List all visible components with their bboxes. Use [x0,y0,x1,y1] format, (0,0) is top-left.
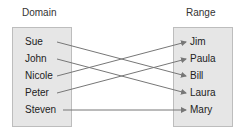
mapping-arrows [0,0,237,132]
